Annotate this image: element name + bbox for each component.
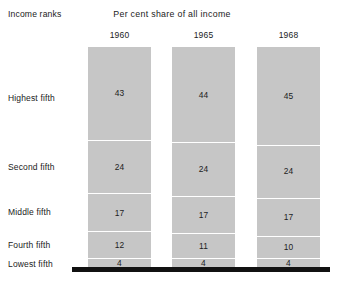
bar-segment: 10: [257, 237, 320, 260]
bar-segment-value: 12: [115, 241, 125, 249]
bar-segment: 17: [88, 194, 151, 232]
bar-column-1968: 45 24 17 10 4: [257, 47, 320, 268]
rank-label-fourth-fifth: Fourth fifth: [8, 240, 50, 250]
bar-segment-value: 43: [115, 89, 125, 97]
bar-segment-value: 24: [199, 165, 209, 173]
bar-segment-value: 24: [115, 163, 125, 171]
bar-column-1960: 43 24 17 12 4: [88, 47, 151, 268]
bar-segment-value: 17: [199, 211, 209, 219]
bar-segment: 17: [257, 199, 320, 237]
bar-segment: 24: [257, 146, 320, 199]
bar-segment-value: 17: [284, 213, 294, 221]
column-header-1968: 1968: [257, 30, 320, 40]
rank-label-second-fifth: Second fifth: [8, 162, 55, 172]
bar-segment-value: 11: [199, 242, 208, 250]
rank-label-middle-fifth: Middle fifth: [8, 207, 51, 217]
bar-segment-value: 17: [115, 209, 125, 217]
bar-segment-value: 45: [284, 92, 294, 100]
bar-segment-value: 44: [199, 91, 209, 99]
chart-baseline-rule: [72, 267, 330, 272]
rank-label-lowest-fifth: Lowest fifth: [8, 259, 53, 269]
column-header-1960: 1960: [88, 30, 151, 40]
bar-segment: 43: [88, 47, 151, 141]
chart-title: Per cent share of all income: [0, 9, 344, 19]
bar-segment: 11: [172, 234, 235, 259]
bar-segment-value: 10: [284, 243, 294, 251]
bar-segment: 24: [172, 143, 235, 196]
bar-segment: 45: [257, 47, 320, 146]
stacked-bar-chart: Income ranks Per cent share of all incom…: [0, 0, 344, 285]
bar-segment-value: 24: [284, 167, 294, 175]
bar-segment: 44: [172, 47, 235, 143]
bar-segment: 17: [172, 197, 235, 235]
bar-segment: 24: [88, 141, 151, 194]
column-header-1965: 1965: [172, 30, 235, 40]
rank-label-highest-fifth: Highest fifth: [8, 93, 55, 103]
bar-column-1965: 44 24 17 11 4: [172, 47, 235, 268]
bar-segment: 12: [88, 232, 151, 259]
